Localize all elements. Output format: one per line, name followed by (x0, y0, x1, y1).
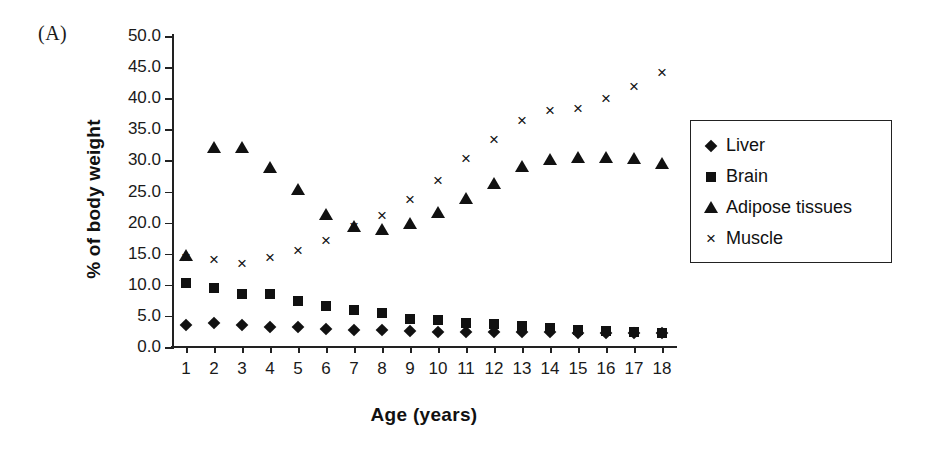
data-point-cross-marker-icon: × (263, 251, 277, 265)
data-point-cross-marker-icon: × (627, 80, 641, 94)
data-point-diamond-marker-icon (600, 327, 613, 340)
figure-panel-a: (A) % of body weight Age (years) 0.05.01… (0, 0, 933, 453)
data-point-diamond-marker-icon (208, 317, 221, 330)
x-tick-mark (662, 346, 664, 353)
data-point-diamond-marker-icon (264, 321, 277, 334)
data-point-triangle-marker-icon (291, 183, 305, 195)
x-tick-mark (354, 346, 356, 353)
data-point-cross-marker-icon: × (179, 251, 193, 265)
data-point-square-marker-icon (657, 328, 667, 338)
y-tick-label: 40.0 (128, 88, 161, 108)
data-point-cross-marker-icon: × (655, 66, 669, 80)
data-point-diamond-marker-icon (460, 326, 473, 339)
x-tick-mark (466, 346, 468, 353)
data-point-cross-marker-icon: × (459, 152, 473, 166)
x-tick-mark (438, 346, 440, 353)
data-point-triangle-marker-icon (543, 153, 557, 165)
x-tick-label: 15 (569, 359, 588, 379)
data-point-diamond-marker-icon (572, 326, 585, 339)
y-tick-label: 5.0 (137, 306, 161, 326)
data-point-triangle-marker-icon (487, 177, 501, 189)
y-tick-label: 20.0 (128, 213, 161, 233)
data-point-square-marker-icon (265, 289, 275, 299)
x-tick-mark (410, 346, 412, 353)
data-point-diamond-marker-icon (404, 324, 417, 337)
legend-triangle-glyph (704, 201, 718, 213)
x-tick-label: 4 (265, 359, 274, 379)
data-point-triangle-marker-icon (235, 141, 249, 153)
data-point-cross-marker-icon: × (207, 253, 221, 267)
data-point-diamond-marker-icon (488, 326, 501, 339)
plot-area: 0.05.010.015.020.025.030.035.040.045.050… (172, 36, 676, 347)
data-point-cross-marker-icon: × (235, 257, 249, 271)
x-tick-label: 6 (321, 359, 330, 379)
data-point-triangle-marker-icon (571, 151, 585, 163)
data-point-square-marker-icon (209, 283, 219, 293)
data-point-square-marker-icon (181, 278, 191, 288)
data-point-triangle-marker-icon (375, 223, 389, 235)
legend-item-liver: Liver (701, 130, 891, 161)
y-tick-mark (165, 36, 172, 38)
data-point-cross-marker-icon: × (599, 92, 613, 106)
x-tick-label: 12 (485, 359, 504, 379)
x-tick-mark (326, 346, 328, 353)
x-tick-label: 1 (181, 359, 190, 379)
legend-item-label: Brain (726, 166, 768, 187)
data-point-square-marker-icon (517, 321, 527, 331)
x-tick-mark (242, 346, 244, 353)
legend-item-adipose-tissues: Adipose tissues (701, 192, 891, 223)
diamond-marker-icon (701, 136, 721, 156)
data-point-square-marker-icon (461, 318, 471, 328)
data-point-cross-marker-icon: × (347, 220, 361, 234)
data-point-square-marker-icon (545, 323, 555, 333)
y-tick-label: 25.0 (128, 182, 161, 202)
data-point-cross-marker-icon: × (403, 193, 417, 207)
data-point-cross-marker-icon: × (543, 104, 557, 118)
legend-cross-glyph: × (704, 232, 718, 246)
data-point-square-marker-icon (489, 319, 499, 329)
data-point-square-marker-icon (237, 289, 247, 299)
data-point-triangle-marker-icon (347, 220, 361, 232)
data-point-square-marker-icon (433, 315, 443, 325)
data-point-cross-marker-icon: × (291, 244, 305, 258)
data-point-triangle-marker-icon (263, 162, 277, 174)
data-point-diamond-marker-icon (628, 327, 641, 340)
legend-item-label: Muscle (726, 228, 783, 249)
y-tick-label: 35.0 (128, 119, 161, 139)
legend-diamond-glyph (705, 139, 718, 152)
x-tick-label: 18 (653, 359, 672, 379)
data-point-cross-marker-icon: × (515, 114, 529, 128)
legend-item-brain: Brain (701, 161, 891, 192)
legend-item-muscle: ×Muscle (701, 223, 891, 254)
data-point-square-marker-icon (293, 296, 303, 306)
data-point-cross-marker-icon: × (487, 133, 501, 147)
legend-square-glyph (706, 172, 716, 182)
cross-marker-icon: × (701, 229, 721, 249)
x-tick-mark (578, 346, 580, 353)
x-tick-mark (186, 346, 188, 353)
data-point-triangle-marker-icon (459, 192, 473, 204)
data-point-diamond-marker-icon (516, 326, 529, 339)
square-marker-icon (701, 167, 721, 187)
data-point-diamond-marker-icon (292, 321, 305, 334)
y-axis-title: % of body weight (83, 69, 105, 329)
data-point-diamond-marker-icon (348, 324, 361, 337)
data-point-triangle-marker-icon (431, 206, 445, 218)
x-tick-label: 16 (597, 359, 616, 379)
x-tick-label: 17 (625, 359, 644, 379)
y-tick-mark (165, 223, 172, 225)
data-point-diamond-marker-icon (320, 323, 333, 336)
x-tick-label: 11 (457, 359, 475, 379)
panel-label: (A) (38, 22, 67, 45)
x-tick-label: 14 (541, 359, 560, 379)
data-point-cross-marker-icon: × (319, 234, 333, 248)
data-point-triangle-marker-icon (179, 249, 193, 261)
data-point-diamond-marker-icon (544, 326, 557, 339)
data-point-square-marker-icon (349, 305, 359, 315)
data-point-square-marker-icon (321, 301, 331, 311)
data-point-cross-marker-icon: × (571, 102, 585, 116)
y-tick-mark (165, 347, 172, 349)
y-tick-label: 45.0 (128, 57, 161, 77)
data-point-triangle-marker-icon (207, 141, 221, 153)
data-point-square-marker-icon (377, 308, 387, 318)
